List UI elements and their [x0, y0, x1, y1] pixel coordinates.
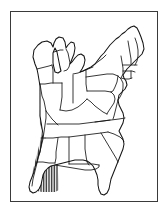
map-frame: Mississippi River Valley corridor: [10, 11, 158, 202]
eastern-us-map: [11, 12, 159, 203]
screenshot-root: Mississippi River Valley corridor: [0, 0, 167, 212]
long-island-outline: [121, 78, 132, 79]
